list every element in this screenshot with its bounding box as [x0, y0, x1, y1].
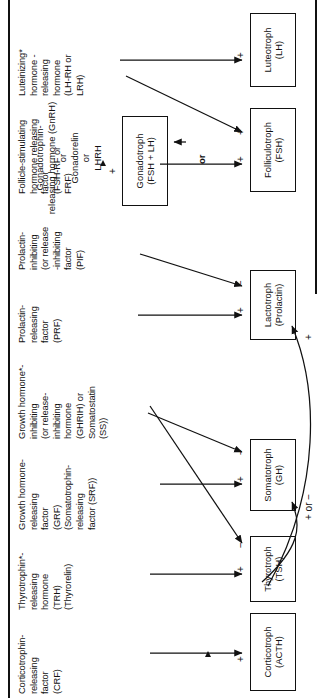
- hypothalamic-pituitary-flow-diagram: Corticotrophin- releasing factor (CRF) T…: [0, 0, 324, 698]
- connector-layer: [0, 0, 324, 698]
- edge-ss-thyrotroph: [150, 406, 242, 543]
- edge-trh-lactotroph: [268, 326, 310, 586]
- edge-ss-somatotroph: [148, 413, 242, 452]
- edge-pif-lactotroph: [140, 254, 242, 286]
- edge-trh-somatotroph: [262, 502, 297, 582]
- edge-lhrh-folliculotroph: [126, 76, 242, 132]
- diagram-canvas: Corticotrophin- releasing factor (CRF) T…: [0, 0, 324, 698]
